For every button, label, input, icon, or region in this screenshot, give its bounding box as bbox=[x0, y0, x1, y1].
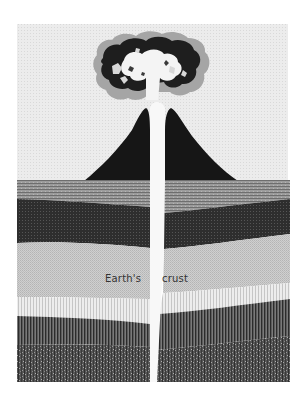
label-crust: crust bbox=[162, 273, 188, 284]
eruption-cloud bbox=[93, 31, 209, 100]
bedrock-left bbox=[17, 344, 150, 382]
volcano-diagram: Earth's crust bbox=[0, 0, 307, 397]
light-stratum-left bbox=[17, 242, 150, 299]
diagram-canvas bbox=[0, 0, 307, 397]
dark-stratum-left bbox=[17, 199, 150, 248]
label-earths: Earth's bbox=[105, 273, 141, 284]
